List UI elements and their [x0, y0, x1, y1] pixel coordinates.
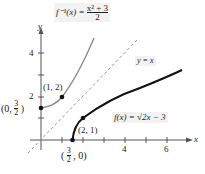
point-label-3half-prefix: (	[61, 150, 64, 161]
function-label: f(x) = √2x − 3	[112, 112, 168, 123]
point-label-2-1: (2, 1)	[78, 126, 98, 135]
point-label-0-suffix: )	[21, 103, 24, 114]
tick-label-y-4: 4	[29, 49, 34, 58]
y-axis-label: y	[38, 22, 42, 31]
fraction-denominator: 2	[14, 109, 18, 117]
x-axis-arrow-icon	[186, 138, 193, 143]
point-1-2	[60, 95, 65, 100]
fraction-denominator: 2	[67, 156, 71, 164]
tick-label-x-6: 6	[164, 145, 169, 154]
point-3half-0	[70, 138, 75, 143]
identity-line-label: y = x	[135, 56, 156, 66]
point-label-3half-suffix: , 0)	[73, 150, 86, 161]
tick-label-y-2: 2	[29, 92, 34, 101]
point-label-0-fraction: 3 2	[14, 100, 18, 117]
inverse-label-denominator: 2	[87, 13, 108, 21]
inverse-function-curve	[41, 38, 94, 108]
x-axis-label: x	[194, 135, 198, 144]
point-label-0-prefix: (0,	[1, 103, 12, 114]
inverse-label-lhs: f⁻¹(x) =	[56, 7, 85, 17]
point-label-3half-fraction: 3 2	[67, 147, 71, 164]
plot-area	[0, 0, 205, 174]
graph: y x 4 6 4 2 f⁻¹(x) = x² + 3 2 y = x f(x)…	[0, 0, 205, 174]
point-label-1-2: (1, 2)	[43, 83, 63, 92]
point-0-3half	[39, 106, 44, 111]
inverse-label-fraction: x² + 3 2	[87, 4, 108, 21]
tick-label-x-4: 4	[122, 145, 127, 154]
inverse-function-label: f⁻¹(x) = x² + 3 2	[54, 3, 110, 22]
point-label-3half-0: ( 3 2 , 0)	[61, 147, 87, 164]
point-label-0-3half: (0, 3 2 )	[1, 100, 24, 117]
point-2-1	[81, 116, 86, 121]
